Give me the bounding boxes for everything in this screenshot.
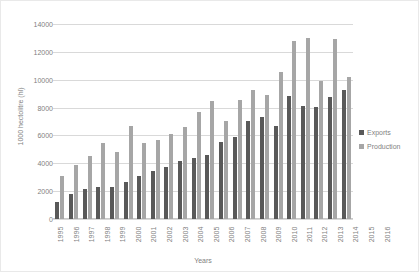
- bar-group: [299, 24, 313, 219]
- x-axis-tick: 1996: [69, 220, 85, 254]
- x-axis-tick: 2007: [240, 220, 256, 254]
- bar-exports: [55, 202, 59, 219]
- bar-exports: [287, 96, 291, 219]
- bar-exports: [192, 158, 196, 219]
- x-axis-tick: 2009: [271, 220, 287, 254]
- bar-production: [60, 176, 64, 219]
- bar-production: [319, 81, 323, 219]
- bar-exports: [342, 90, 346, 219]
- bar-exports: [164, 167, 168, 219]
- legend-label: Exports: [367, 129, 391, 136]
- x-axis-tick-label: 1998: [104, 227, 111, 243]
- legend-item[interactable]: Exports: [359, 129, 400, 136]
- x-axis-tick-label: 2016: [384, 227, 391, 243]
- bar-group: [230, 24, 244, 219]
- bar-exports: [69, 194, 73, 219]
- x-axis-tick-label: 2007: [244, 227, 251, 243]
- x-axis-tick-label: 2012: [322, 227, 329, 243]
- bar-production: [292, 41, 296, 219]
- x-axis-tick-label: 2002: [166, 227, 173, 243]
- x-axis-tick: 2001: [146, 220, 162, 254]
- legend-label: Production: [367, 143, 400, 150]
- bar-exports: [233, 137, 237, 219]
- bar-production: [88, 156, 92, 219]
- bar-exports: [110, 187, 114, 219]
- bar-exports: [219, 142, 223, 219]
- bar-exports: [274, 126, 278, 219]
- legend-swatch-icon: [359, 144, 364, 149]
- bar-production: [129, 126, 133, 219]
- bar-group: [94, 24, 108, 219]
- x-axis-tick-label: 2015: [368, 227, 375, 243]
- bar-group: [312, 24, 326, 219]
- x-axis-tick: 2005: [209, 220, 225, 254]
- bar-exports: [328, 97, 332, 219]
- x-axis-tick: 2011: [302, 220, 317, 254]
- bar-production: [115, 152, 119, 219]
- x-axis-tick: 2015: [364, 220, 380, 254]
- x-axis-tick-label: 2004: [197, 227, 204, 243]
- bar-exports: [246, 121, 250, 219]
- bar-group: [258, 24, 272, 219]
- bar-exports: [314, 107, 318, 219]
- bar-production: [265, 95, 269, 219]
- bar-exports: [301, 106, 305, 219]
- x-axis-tick-label: 1999: [120, 227, 127, 243]
- bar-exports: [260, 117, 264, 219]
- chart-legend: ExportsProduction: [359, 129, 400, 157]
- bar-exports: [205, 155, 209, 219]
- bar-group: [326, 24, 340, 219]
- y-axis-title: 1000 hectolitre (hl): [17, 62, 24, 172]
- x-axis-tick: 1998: [100, 220, 116, 254]
- x-axis-tick: 2003: [178, 220, 194, 254]
- bar-production: [74, 165, 78, 219]
- bar-production: [169, 134, 173, 219]
- x-axis-tick: 2010: [287, 220, 303, 254]
- bar-group: [217, 24, 231, 219]
- bar-group: [148, 24, 162, 219]
- bar-groups: [53, 24, 353, 219]
- x-axis-tick: 1995: [53, 220, 69, 254]
- x-axis-tick-label: 1996: [73, 227, 80, 243]
- bar-exports: [137, 176, 141, 219]
- legend-item[interactable]: Production: [359, 143, 400, 150]
- bar-exports: [151, 171, 155, 219]
- bar-production: [156, 140, 160, 219]
- bar-exports: [124, 182, 128, 219]
- x-axis-tick-label: 2010: [291, 227, 298, 243]
- bar-production: [197, 112, 201, 219]
- y-axis-title-wrapper: 1000 hectolitre (hl): [9, 1, 23, 272]
- x-axis-tick-label: 2003: [182, 227, 189, 243]
- bar-group: [189, 24, 203, 219]
- bar-production: [251, 90, 255, 219]
- x-axis-tick: 2008: [256, 220, 272, 254]
- x-axis-tick-label: 2008: [260, 227, 267, 243]
- bar-production: [210, 101, 214, 219]
- x-axis-tick: 2004: [193, 220, 209, 254]
- bar-exports: [96, 187, 100, 219]
- x-axis-tick-label: 2000: [135, 227, 142, 243]
- bar-production: [333, 39, 337, 219]
- x-axis-tick: 1997: [84, 220, 100, 254]
- bar-group: [244, 24, 258, 219]
- x-axis-tick: 2014: [348, 220, 364, 254]
- bar-group: [162, 24, 176, 219]
- bar-production: [306, 38, 310, 219]
- x-axis-tick: 2006: [224, 220, 240, 254]
- bar-group: [108, 24, 122, 219]
- bar-group: [67, 24, 81, 219]
- bar-group: [176, 24, 190, 219]
- bar-group: [135, 24, 149, 219]
- bar-production: [183, 127, 187, 219]
- x-axis-tick-label: 1995: [57, 227, 64, 243]
- bar-group: [121, 24, 135, 219]
- x-axis-title: Years: [53, 257, 353, 264]
- bar-production: [238, 100, 242, 219]
- bar-production: [347, 77, 351, 219]
- x-axis-tick-label: 2014: [353, 227, 360, 243]
- x-axis-tick: 2000: [131, 220, 147, 254]
- bar-group: [271, 24, 285, 219]
- bar-group: [80, 24, 94, 219]
- x-axis-tick-label: 2009: [275, 227, 282, 243]
- x-axis-tick-label: 2011: [306, 227, 313, 242]
